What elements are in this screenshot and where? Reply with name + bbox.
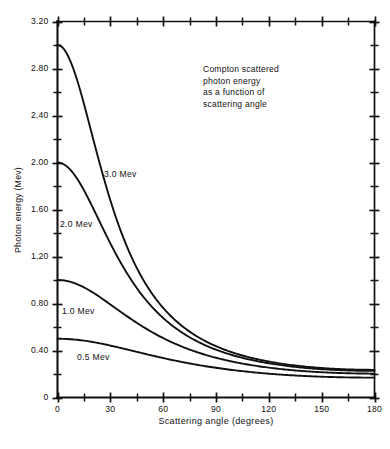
y-axis-title: Photon energy (Mev): [13, 145, 23, 275]
y-tick-label-0.4: 0.40: [0, 345, 49, 355]
annotation-line-1: Compton scattered: [203, 64, 279, 76]
x-tick-label-150: 150: [297, 404, 347, 414]
y-tick-label-2: 2.00: [0, 157, 49, 167]
x-tick-label-30: 30: [85, 404, 135, 414]
x-tick-label-90: 90: [191, 404, 241, 414]
curve-label-0-5-mev: 0.5 Mev: [77, 352, 110, 362]
y-tick-label-3.2: 3.20: [0, 16, 49, 26]
curve-label-3-0-mev: 3.0 Mev: [104, 169, 137, 179]
figure-compton-scattering: 030609012015018000.400.801.201.602.002.4…: [0, 0, 390, 449]
y-tick-label-2.4: 2.40: [0, 110, 49, 120]
y-tick-label-1.2: 1.20: [0, 251, 49, 261]
x-tick-label-0: 0: [33, 404, 83, 414]
curve-label-2-0-mev: 2.0 Mev: [60, 219, 93, 229]
annotation-line-2: photon energy: [203, 76, 279, 88]
plot-area: [0, 0, 390, 449]
y-tick-label-0.8: 0.80: [0, 298, 49, 308]
y-tick-label-1.6: 1.60: [0, 204, 49, 214]
x-axis-title: Scattering angle (degrees): [57, 416, 375, 426]
curve-2-0-mev: [58, 163, 375, 371]
x-tick-label-60: 60: [138, 404, 188, 414]
x-tick-label-180: 180: [350, 404, 390, 414]
x-tick-label-120: 120: [244, 404, 294, 414]
annotation-line-4: scattering angle: [203, 99, 279, 111]
y-tick-label-2.8: 2.80: [0, 63, 49, 73]
chart-annotation: Compton scattered photon energy as a fun…: [203, 64, 279, 110]
y-tick-label-0: 0: [0, 392, 49, 402]
curve-label-1-0-mev: 1.0 Mev: [62, 306, 95, 316]
annotation-line-3: as a function of: [203, 87, 279, 99]
